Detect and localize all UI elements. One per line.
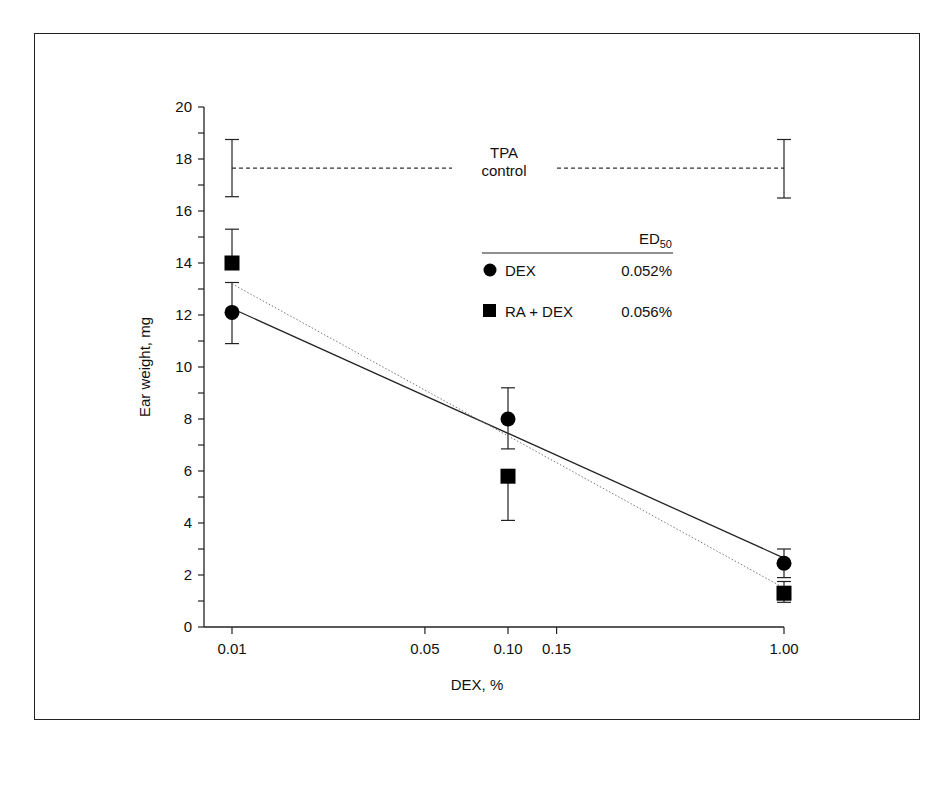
y-axis-title: Ear weight, mg bbox=[136, 317, 153, 417]
x-tick-label: 1.00 bbox=[769, 640, 798, 657]
y-tick-label: 2 bbox=[184, 566, 192, 583]
circle-marker-icon bbox=[225, 305, 240, 320]
circle-marker-icon bbox=[777, 556, 792, 571]
tpa-label-line1: TPA bbox=[490, 144, 518, 161]
legend: ED50 DEX 0.052% RA + DEX 0.056% bbox=[482, 230, 673, 320]
legend-dex-label: DEX bbox=[505, 262, 536, 279]
x-tick-label: 0.15 bbox=[542, 640, 571, 657]
circle-marker-icon bbox=[484, 264, 497, 277]
legend-ra-label: RA + DEX bbox=[505, 303, 573, 320]
x-axis-title: DEX, % bbox=[451, 676, 504, 693]
y-tick-label: 6 bbox=[184, 462, 192, 479]
square-marker-icon bbox=[483, 304, 496, 317]
square-marker-icon bbox=[225, 256, 240, 271]
x-tick-label: 0.10 bbox=[493, 640, 522, 657]
chart-canvas: 024681012141618200.010.050.100.151.00 DE… bbox=[0, 0, 947, 786]
y-tick-label: 14 bbox=[175, 254, 192, 271]
legend-dex-ed50: 0.052% bbox=[621, 262, 672, 279]
y-tick-label: 4 bbox=[184, 514, 192, 531]
x-tick-label: 0.05 bbox=[410, 640, 439, 657]
y-tick-label: 18 bbox=[175, 150, 192, 167]
y-tick-label: 16 bbox=[175, 202, 192, 219]
plot-series bbox=[225, 140, 792, 603]
square-marker-icon bbox=[777, 586, 792, 601]
y-tick-label: 8 bbox=[184, 410, 192, 427]
y-tick-label: 20 bbox=[175, 98, 192, 115]
legend-ra-ed50: 0.056% bbox=[621, 303, 672, 320]
circle-marker-icon bbox=[501, 412, 516, 427]
legend-header: ED50 bbox=[639, 230, 672, 250]
ra-dex-fit-line bbox=[232, 284, 784, 588]
y-tick-label: 10 bbox=[175, 358, 192, 375]
y-tick-label: 12 bbox=[175, 306, 192, 323]
square-marker-icon bbox=[501, 469, 516, 484]
x-tick-label: 0.01 bbox=[217, 640, 246, 657]
y-tick-label: 0 bbox=[184, 618, 192, 635]
tpa-label-line2: control bbox=[481, 162, 526, 179]
axes: 024681012141618200.010.050.100.151.00 bbox=[175, 98, 798, 657]
